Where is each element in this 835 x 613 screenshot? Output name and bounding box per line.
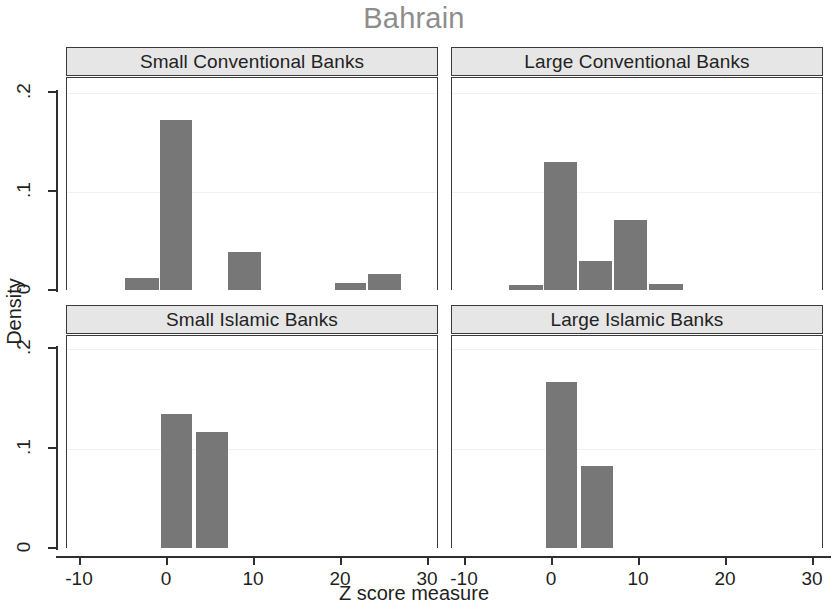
y-axis-label: Density — [3, 232, 26, 392]
x-axis-tick — [253, 557, 255, 565]
gridline — [67, 93, 437, 94]
panel-header-2: Large Conventional Banks — [451, 47, 823, 76]
y-axis-tick — [48, 547, 56, 549]
panel-header-3: Small Islamic Banks — [66, 305, 438, 334]
histogram-bar — [125, 278, 158, 290]
gridline — [452, 349, 822, 350]
gridline — [452, 93, 822, 94]
y-axis-tick-label: 0 — [13, 527, 35, 567]
gridline — [452, 192, 822, 193]
gridline — [67, 192, 437, 193]
gridline — [452, 449, 822, 450]
y-axis-tick — [48, 289, 56, 291]
panel-header-1: Small Conventional Banks — [66, 47, 438, 76]
x-axis-tick — [166, 557, 168, 565]
x-axis-line — [56, 556, 446, 558]
x-axis-tick — [638, 557, 640, 565]
histogram-bar — [368, 274, 401, 290]
histogram-bar — [581, 466, 613, 548]
histogram-bar — [614, 220, 647, 290]
histogram-bar — [335, 283, 367, 290]
y-axis-line — [56, 346, 58, 550]
bars-container — [452, 336, 822, 548]
histogram-bar — [196, 432, 228, 548]
histogram-bar — [160, 120, 192, 290]
plot-area-2 — [451, 77, 823, 290]
gridline — [67, 449, 437, 450]
plot-area-1 — [66, 77, 438, 290]
y-axis-tick-label: .1 — [13, 427, 35, 467]
histogram-bar — [649, 284, 683, 290]
x-axis-tick — [464, 557, 466, 565]
plot-area-4 — [451, 335, 823, 548]
x-axis-line — [441, 556, 831, 558]
histogram-bar — [161, 414, 193, 548]
y-axis-tick — [48, 190, 56, 192]
panel-title: Large Islamic Banks — [551, 309, 724, 331]
chart-title: Bahrain — [0, 2, 828, 35]
y-axis-tick-label: .2 — [13, 71, 35, 111]
x-axis-tick — [340, 557, 342, 565]
x-axis-label: Z score measure — [0, 582, 828, 605]
panel-title: Small Islamic Banks — [166, 309, 338, 331]
panel-title: Large Conventional Banks — [524, 51, 749, 73]
bars-container — [452, 78, 822, 290]
histogram-bar — [544, 162, 577, 290]
y-axis-tick-label: .1 — [13, 170, 35, 210]
x-axis-tick — [725, 557, 727, 565]
bars-container — [67, 336, 437, 548]
x-axis-tick — [812, 557, 814, 565]
panel-title: Small Conventional Banks — [140, 51, 364, 73]
x-axis-tick — [551, 557, 553, 565]
y-axis-tick — [48, 347, 56, 349]
histogram-bar — [546, 382, 578, 548]
y-axis-line — [56, 90, 58, 292]
y-axis-tick — [48, 91, 56, 93]
x-axis-tick — [427, 557, 429, 565]
bars-container — [67, 78, 437, 290]
histogram-bar — [579, 261, 612, 290]
plot-area-3 — [66, 335, 438, 548]
gridline — [67, 349, 437, 350]
histogram-bar — [509, 285, 542, 290]
x-axis-tick — [79, 557, 81, 565]
histogram-bar — [228, 252, 261, 290]
panel-header-4: Large Islamic Banks — [451, 305, 823, 334]
y-axis-tick — [48, 447, 56, 449]
